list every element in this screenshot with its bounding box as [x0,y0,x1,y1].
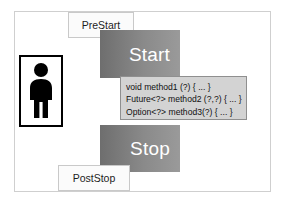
code-line: void method1 (?) { ... } [126,81,246,93]
stage-stop-label: Stop [130,139,180,158]
callout-poststop-label: PostStop [73,173,116,184]
actor-box [19,55,63,127]
callout-prestart-label: PreStart [82,20,121,31]
person-actor-icon [26,62,56,120]
methods-code-box: void method1 (?) { ... } Future<?> metho… [120,76,247,120]
diagram-frame: PreStart Start void method1 (?) { ... } … [14,11,271,192]
code-line: Option<?> method3(?) { ... } [126,106,246,118]
stage-start-label: Start [129,45,180,64]
callout-poststop[interactable]: PostStop [58,165,130,191]
stage-start[interactable]: Start [100,30,180,78]
code-line: Future<?> method2 (?,?) { ... } [126,93,246,105]
